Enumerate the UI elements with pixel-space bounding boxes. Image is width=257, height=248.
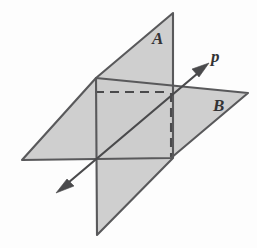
plane-a-label: A <box>151 29 163 48</box>
geometry-diagram: A B p <box>0 0 257 248</box>
geometry-canvas: A B p <box>0 0 257 248</box>
plane-b-label: B <box>212 96 224 115</box>
line-p-label: p <box>209 47 220 66</box>
